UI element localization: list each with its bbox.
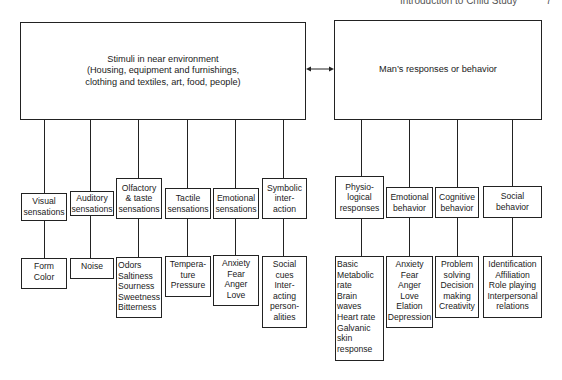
items-text: Anxiety Fear Anger Love xyxy=(222,258,250,300)
page-header: Introduction to Child Study 7 xyxy=(400,0,560,6)
stimulus-items-symbolic: Social cues Inter- acting person- alitie… xyxy=(262,256,307,328)
items-text: Anxiety Fear Anger Love Elation Depressi… xyxy=(388,259,431,323)
category-label: Auditory sensations xyxy=(71,193,112,214)
items-text: Odors Saltiness Sourness Sweetness Bitte… xyxy=(118,260,160,313)
page-number: 7 xyxy=(546,0,552,6)
category-label: Physio- logical responses xyxy=(340,182,380,214)
category-label: Emotional behavior xyxy=(390,192,428,213)
items-text: Social cues Inter- acting person- alitie… xyxy=(270,259,299,323)
stimulus-items-olfactory: Odors Saltiness Sourness Sweetness Bitte… xyxy=(116,257,162,318)
response-box: Man’s responses or behavior xyxy=(334,20,542,120)
items-text: Basic Metabolic rate Brain waves Heart r… xyxy=(337,259,375,354)
stimulus-category-olfactory: Olfactory & taste sensations xyxy=(116,178,162,219)
stimulus-category-auditory: Auditory sensations xyxy=(70,191,114,216)
stimulus-items-visual: Form Color xyxy=(21,258,67,289)
items-text: Identification Affiliation Role playing … xyxy=(487,259,537,312)
category-label: Olfactory & taste sensations xyxy=(118,183,159,215)
category-label: Social behavior xyxy=(496,191,529,212)
response-items-emotional: Anxiety Fear Anger Love Elation Depressi… xyxy=(386,256,433,328)
response-items-cognitive: Problem solving Decision making Creativi… xyxy=(435,256,479,318)
stimulus-items-auditory: Noise xyxy=(70,258,114,279)
environment-box-text: Stimuli in near environment (Housing, eq… xyxy=(85,54,240,89)
stimulus-category-tactile: Tactile sensations xyxy=(165,188,211,219)
items-text: Tempera- ture Pressure xyxy=(170,259,206,291)
response-box-text: Man’s responses or behavior xyxy=(379,64,497,76)
items-text: Problem solving Decision making Creativi… xyxy=(439,259,475,312)
items-text: Noise xyxy=(81,261,103,272)
stimulus-items-emotional: Anxiety Fear Anger Love xyxy=(213,255,259,306)
response-category-physiological: Physio- logical responses xyxy=(335,176,384,219)
category-label: Tactile sensations xyxy=(167,193,208,214)
category-label: Symbolic inter- action xyxy=(267,183,302,215)
connector-line xyxy=(44,120,45,258)
response-items-physiological: Basic Metabolic rate Brain waves Heart r… xyxy=(335,256,384,361)
bidirectional-arrow-icon xyxy=(306,64,334,74)
running-title: Introduction to Child Study xyxy=(400,0,517,6)
response-items-social: Identification Affiliation Role playing … xyxy=(483,256,542,318)
stimulus-category-emotional: Emotional sensations xyxy=(213,188,259,219)
response-category-social: Social behavior xyxy=(483,186,542,218)
response-category-emotional: Emotional behavior xyxy=(386,187,433,218)
environment-box: Stimuli in near environment (Housing, eq… xyxy=(20,22,306,120)
items-text: Form Color xyxy=(34,261,55,282)
stimulus-items-tactile: Tempera- ture Pressure xyxy=(165,256,211,297)
category-label: Cognitive behavior xyxy=(439,192,475,213)
category-label: Emotional sensations xyxy=(215,193,256,214)
connector-line xyxy=(90,120,91,258)
stimulus-category-visual: Visual sensations xyxy=(21,193,67,221)
stimulus-category-symbolic: Symbolic inter- action xyxy=(262,178,307,219)
category-label: Visual sensations xyxy=(23,196,64,217)
response-category-cognitive: Cognitive behavior xyxy=(435,187,479,218)
